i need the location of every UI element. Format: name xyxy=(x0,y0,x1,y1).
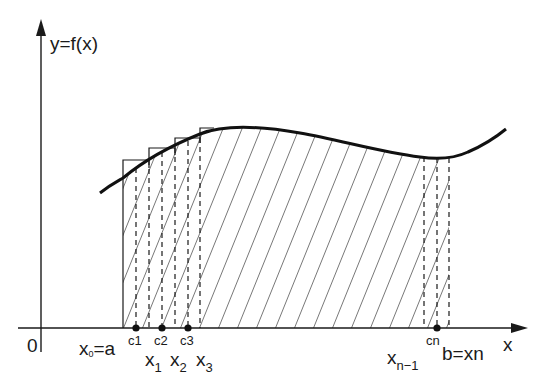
label-c2: c2 xyxy=(154,334,168,347)
label-x2: x2 xyxy=(170,350,187,369)
label-a: x0=a xyxy=(79,339,115,358)
riemann-sum-diagram: y=f(x) 0 x x0=a c1 c2 c3 x1 x2 x3 cn xn−… xyxy=(0,0,538,382)
y-axis-label: y=f(x) xyxy=(50,34,98,53)
label-xn-1-base: x xyxy=(387,347,397,368)
origin-label: 0 xyxy=(27,336,38,355)
x-axis-label: x xyxy=(503,335,513,354)
label-x1-base: x xyxy=(145,349,155,370)
label-a-base: x xyxy=(79,338,89,359)
diagram-graphics xyxy=(0,0,538,382)
label-x3-sub: 3 xyxy=(206,360,213,375)
label-x3: x3 xyxy=(196,350,213,369)
label-xn-1: xn−1 xyxy=(387,348,419,367)
label-x1: x1 xyxy=(145,350,162,369)
hatched-area xyxy=(100,100,480,340)
label-x2-base: x xyxy=(170,349,180,370)
label-c1: c1 xyxy=(128,334,142,347)
label-x1-sub: 1 xyxy=(155,360,162,375)
label-a-rest: =a xyxy=(94,338,116,359)
label-cn: cn xyxy=(426,334,440,347)
label-a-sub: 0 xyxy=(89,349,94,359)
label-x2-sub: 2 xyxy=(180,360,187,375)
label-b: b=xn xyxy=(442,344,484,363)
label-c3: c3 xyxy=(180,334,194,347)
label-xn-1-sub: n−1 xyxy=(397,358,419,373)
label-x3-base: x xyxy=(196,349,206,370)
